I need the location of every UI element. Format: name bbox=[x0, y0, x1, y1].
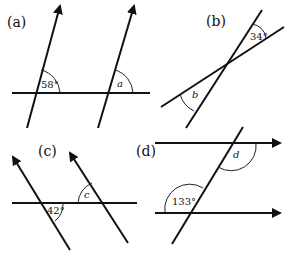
unknown-a: a bbox=[117, 78, 123, 89]
unknown-d: d bbox=[233, 149, 239, 160]
angle-label-133: 133° bbox=[172, 196, 196, 207]
panel-c: (c) 42° c bbox=[12, 143, 137, 250]
panel-a-label: (a) bbox=[7, 14, 26, 30]
unknown-b: b bbox=[192, 89, 198, 100]
transversal-left-arrow bbox=[27, 6, 60, 128]
panel-b-label: (b) bbox=[206, 13, 226, 29]
transversal-right-arrow bbox=[98, 6, 134, 128]
panel-b: (b) 34° b bbox=[161, 10, 284, 128]
angle-label-42: 42° bbox=[47, 205, 65, 216]
panel-d: (d) d 133° bbox=[136, 127, 280, 244]
angle-label-58: 58° bbox=[41, 79, 59, 90]
angle-label-34: 34° bbox=[250, 31, 268, 42]
unknown-c: c bbox=[84, 189, 90, 200]
panel-c-label: (c) bbox=[38, 143, 57, 159]
panel-d-label: (d) bbox=[136, 143, 156, 159]
geometry-diagram: (a) 58° a (b) 34° b (c) 42° c (d) d bbox=[0, 0, 292, 257]
panel-a: (a) 58° a bbox=[7, 6, 150, 128]
